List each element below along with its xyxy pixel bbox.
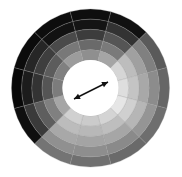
segment-right-ring-4 (127, 75, 139, 100)
segment-right-ring-5 (118, 78, 129, 98)
segment-bottom-ring-5 (81, 115, 101, 126)
grayscale-wheel-diagram (0, 0, 182, 177)
segment-top-ring-5 (81, 50, 101, 61)
segment-left-ring-4 (42, 75, 54, 100)
segment-top-ring-4 (78, 40, 103, 52)
center-hole (63, 60, 119, 116)
segment-left-ring-5 (52, 78, 63, 98)
segment-bottom-ring-4 (78, 125, 103, 137)
